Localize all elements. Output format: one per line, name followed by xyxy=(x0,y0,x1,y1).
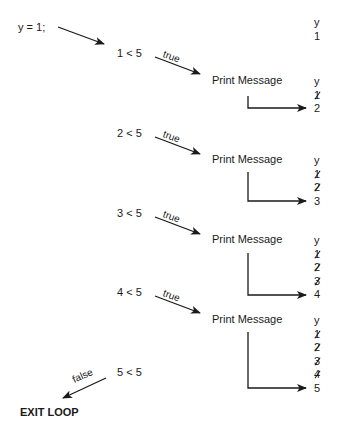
struck-value: 3 xyxy=(314,355,328,369)
condition-1: 1 < 5 xyxy=(117,47,142,59)
action-3: Print Message xyxy=(212,233,282,245)
struck-value: 2 xyxy=(314,341,328,355)
arrow-init-to-condition xyxy=(58,27,104,44)
variable-column-3: y 1 2 3 4 xyxy=(314,234,328,302)
action-2: Print Message xyxy=(212,153,282,165)
variable-column-4: y 1 2 3 4 5 xyxy=(314,314,328,395)
arrow-increment-3 xyxy=(248,253,306,295)
condition-4: 4 < 5 xyxy=(117,286,142,298)
variable-header: y xyxy=(314,314,328,328)
struck-value: 1 xyxy=(314,328,328,342)
arrow-false xyxy=(63,378,106,398)
struck-value: 4 xyxy=(314,368,328,382)
struck-value: 1 xyxy=(314,89,328,103)
variable-value: 1 xyxy=(314,30,328,44)
arrow-increment-2 xyxy=(248,172,306,201)
struck-value: 2 xyxy=(314,261,328,275)
action-1: Print Message xyxy=(212,74,282,86)
exit-loop-label: EXIT LOOP xyxy=(20,406,79,418)
struck-value: 3 xyxy=(314,275,328,289)
arrow-increment-4 xyxy=(248,332,306,388)
condition-3: 3 < 5 xyxy=(117,207,142,219)
action-4: Print Message xyxy=(212,313,282,325)
current-value: 2 xyxy=(314,102,328,116)
struck-value: 1 xyxy=(314,248,328,262)
variable-header: y xyxy=(314,75,328,89)
variable-header: y xyxy=(314,234,328,248)
current-value: 5 xyxy=(314,382,328,396)
variable-column-2: y 1 2 3 xyxy=(314,154,328,208)
current-value: 3 xyxy=(314,195,328,209)
arrow-increment-1 xyxy=(248,96,306,108)
condition-2: 2 < 5 xyxy=(117,127,142,139)
struck-value: 2 xyxy=(314,181,328,195)
final-condition: 5 < 5 xyxy=(117,366,142,378)
variable-header: y xyxy=(314,16,328,30)
variable-column-initial: y 1 xyxy=(314,16,328,43)
current-value: 4 xyxy=(314,288,328,302)
struck-value: 1 xyxy=(314,168,328,182)
variable-column-1: y 1 2 xyxy=(314,75,328,116)
init-statement: y = 1; xyxy=(18,21,45,33)
variable-header: y xyxy=(314,154,328,168)
